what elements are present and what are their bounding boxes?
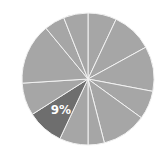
slice-percentage-label: 9%: [51, 103, 71, 117]
pie-labels: 9%: [51, 103, 71, 117]
pie-chart: 9%: [0, 0, 163, 154]
pie-slices: [22, 13, 154, 145]
